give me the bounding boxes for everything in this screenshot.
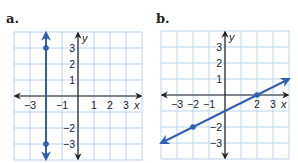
y-axis-label: y — [228, 31, 236, 43]
x-tick-label: −3 — [24, 99, 36, 111]
graph-b: xy−3−2−123321−2−3 — [161, 31, 289, 159]
y-tick-label: 1 — [216, 73, 222, 85]
data-point — [254, 92, 260, 98]
y-tick-label: 2 — [69, 58, 75, 70]
data-point — [190, 124, 196, 130]
graph-a: xy−3−1123321−2−3 — [14, 32, 142, 160]
graphs: xy−3−1123321−2−3 xy−3−2−123321−2−3 — [0, 0, 298, 163]
x-tick-label: 3 — [123, 99, 129, 111]
x-tick-label: −2 — [187, 98, 199, 110]
x-tick-label: −1 — [56, 99, 68, 111]
y-tick-label: −3 — [210, 137, 222, 149]
x-tick-label: 2 — [254, 98, 260, 110]
data-point — [43, 45, 49, 51]
x-tick-label: −3 — [171, 98, 183, 110]
x-tick-label: 2 — [107, 99, 113, 111]
y-axis-label: y — [81, 32, 89, 44]
y-tick-label: −2 — [210, 121, 222, 133]
y-tick-label: 2 — [216, 57, 222, 69]
x-axis-label: x — [280, 98, 287, 110]
x-tick-label: 3 — [270, 98, 276, 110]
data-point — [43, 141, 49, 147]
y-tick-label: −3 — [63, 138, 75, 150]
y-tick-label: 1 — [69, 74, 75, 86]
x-tick-label: 1 — [91, 99, 97, 111]
y-tick-label: 3 — [216, 41, 222, 53]
y-tick-label: 3 — [69, 42, 75, 54]
x-axis-label: x — [133, 99, 140, 111]
y-tick-label: −2 — [63, 122, 75, 134]
x-tick-label: −1 — [203, 98, 215, 110]
